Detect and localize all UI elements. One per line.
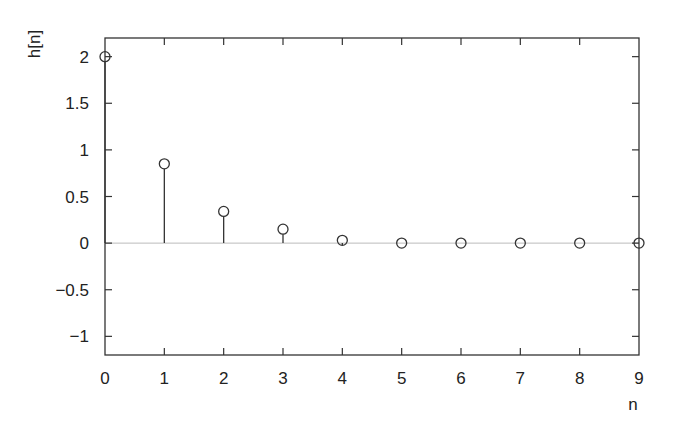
x-tick-label: 4 [338,369,347,388]
circle-marker-icon [159,159,169,169]
y-tick-label: −1 [70,327,89,346]
data-point [337,235,347,245]
y-tick-label: 0.5 [65,188,89,207]
y-axis-ticks: 21.510.50−0.5−1 [55,48,639,347]
y-axis-label: h[n] [25,30,44,58]
x-tick-label: 3 [278,369,287,388]
y-tick-label: 2 [80,48,89,67]
x-tick-label: 6 [456,369,465,388]
y-tick-label: 0 [80,234,89,253]
x-tick-label: 1 [160,369,169,388]
axes-frame [105,38,639,355]
circle-marker-icon [278,224,288,234]
data-point [278,224,288,243]
y-tick-label: 1 [80,141,89,160]
x-axis-ticks: 0123456789 [100,38,643,388]
data-point [159,159,169,243]
x-tick-label: 7 [516,369,525,388]
x-tick-label: 8 [575,369,584,388]
stem-series [100,52,644,248]
y-tick-label: 1.5 [65,94,89,113]
plot-axes [105,38,639,355]
x-tick-label: 2 [219,369,228,388]
x-tick-label: 0 [100,369,109,388]
x-tick-label: 5 [397,369,406,388]
data-point [219,206,229,243]
x-tick-label: 9 [634,369,643,388]
stem-plot: 21.510.50−0.5−1 0123456789 h[n] n [0,0,674,427]
x-axis-label: n [628,395,637,414]
circle-marker-icon [219,206,229,216]
y-tick-label: −0.5 [55,281,89,300]
